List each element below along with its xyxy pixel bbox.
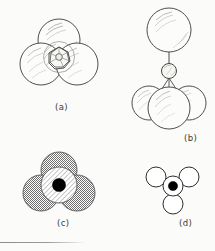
panel-d-drawing — [144, 164, 202, 216]
sphere-base-front — [148, 87, 190, 129]
panel-d — [144, 164, 202, 216]
panel-b — [126, 4, 212, 132]
nucleus-dot — [168, 181, 177, 190]
center-atom-small — [162, 64, 177, 79]
figure-root: (a) — [0, 0, 215, 251]
bottom-divider-rule — [0, 242, 86, 243]
skeletal-circle-bottom — [163, 194, 183, 214]
sphere-apex — [147, 8, 191, 52]
panel-c — [18, 152, 100, 216]
panel-c-drawing — [18, 152, 100, 216]
panel-d-caption: (d) — [179, 218, 192, 228]
panel-a-drawing — [18, 16, 100, 98]
panel-c-caption: (c) — [57, 218, 70, 228]
panel-a — [18, 16, 100, 98]
nucleus-dot — [52, 178, 65, 191]
panel-a-caption: (a) — [55, 102, 68, 112]
panel-b-caption: (b) — [184, 133, 197, 143]
panel-b-drawing — [126, 4, 212, 132]
